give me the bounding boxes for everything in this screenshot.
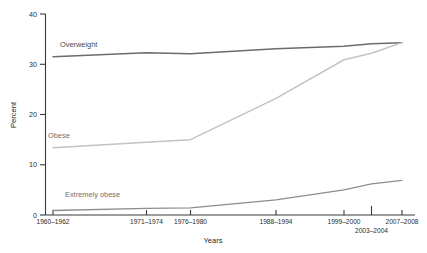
x-axis: 1960–1962 1971–1974 1976–1980 1988–1994 … [36, 206, 418, 245]
x-tick-label-2003-2004: 2003–2004 [355, 227, 388, 234]
x-tick-label-1988-1994: 1988–1994 [259, 218, 292, 225]
x-tick-label-1976-1980: 1976–1980 [174, 218, 207, 225]
chart-figure: 40 30 20 10 0 Percent 1960–1962 1971–197… [0, 0, 427, 253]
series-labels: Overweight Obese Extremely obese [48, 40, 120, 199]
line-chart-svg: 40 30 20 10 0 Percent 1960–1962 1971–197… [0, 0, 427, 253]
series-line-overweight [53, 43, 402, 57]
extremely-obese-label: Extremely obese [65, 190, 120, 199]
y-axis-title: Percent [9, 101, 18, 128]
y-tick-label-40: 40 [29, 10, 37, 19]
y-tick-label-30: 30 [29, 60, 37, 69]
x-tick-label-1960-1962: 1960–1962 [36, 218, 69, 225]
figure-footnote [0, 248, 427, 253]
series-group [53, 43, 402, 211]
series-line-obese [53, 43, 402, 148]
obese-label: Obese [48, 131, 70, 140]
x-tick-label-1999-2000: 1999–2000 [327, 218, 360, 225]
x-axis-title: Years [203, 236, 222, 245]
y-tick-label-10: 10 [29, 160, 37, 169]
x-tick-label-2007-2008: 2007–2008 [385, 218, 418, 225]
y-axis: 40 30 20 10 0 Percent [9, 10, 46, 220]
y-tick-label-20: 20 [29, 110, 37, 119]
overweight-label: Overweight [60, 40, 97, 49]
x-tick-label-1971-1974: 1971–1974 [130, 218, 163, 225]
